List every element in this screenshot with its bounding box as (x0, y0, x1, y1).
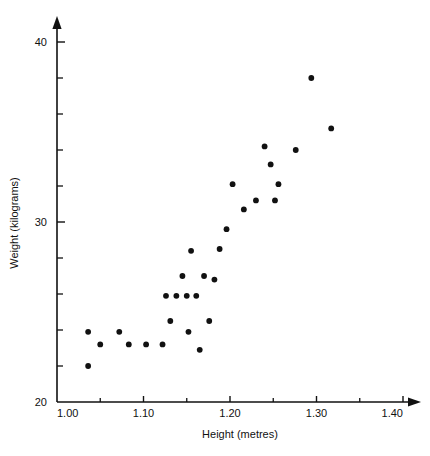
x-axis-arrow-icon (408, 397, 421, 406)
data-point (268, 162, 274, 168)
data-point (188, 248, 194, 254)
data-point (193, 293, 199, 299)
data-point (197, 347, 203, 353)
y-axis-title: Weight (kilograms) (8, 177, 20, 269)
data-point (293, 147, 299, 153)
y-tick-label: 40 (35, 36, 47, 48)
data-point (126, 342, 132, 348)
data-point (224, 226, 230, 232)
data-point (201, 273, 207, 279)
x-axis-title: Height (metres) (202, 428, 278, 440)
x-tick-label: 1.30 (306, 407, 327, 419)
y-tick-label: 30 (35, 216, 47, 228)
data-point (167, 318, 173, 324)
data-point (253, 198, 259, 204)
data-point (217, 246, 223, 252)
axis-tick-labels: 1.001.101.201.301.40203040Height (metres… (8, 36, 403, 440)
data-point (143, 342, 149, 348)
x-tick-label: 1.10 (133, 407, 154, 419)
data-point (97, 342, 103, 348)
data-point (116, 329, 122, 335)
data-point (276, 181, 282, 187)
x-tick-label: 1.40 (382, 407, 403, 419)
data-point (206, 318, 212, 324)
data-points (85, 75, 334, 369)
data-point (262, 144, 268, 150)
data-point (230, 181, 236, 187)
data-point (163, 293, 169, 299)
y-axis-arrow-icon (52, 16, 61, 29)
axis-ticks (57, 42, 403, 402)
data-point (160, 342, 166, 348)
x-tick-label: 1.00 (57, 407, 78, 419)
data-point (328, 125, 334, 131)
data-point (241, 207, 247, 213)
data-point (85, 329, 91, 335)
data-point (180, 273, 186, 279)
data-point (184, 293, 190, 299)
scatter-plot-figure: 1.001.101.201.301.40203040Height (metres… (0, 0, 430, 456)
data-point (85, 363, 91, 369)
data-point (186, 329, 192, 335)
data-point (212, 277, 218, 283)
data-point (173, 293, 179, 299)
data-point (272, 198, 278, 204)
x-tick-label: 1.20 (219, 407, 240, 419)
plot-canvas: 1.001.101.201.301.40203040Height (metres… (0, 0, 430, 456)
axes (52, 16, 421, 407)
data-point (308, 75, 314, 81)
y-tick-label: 20 (35, 396, 47, 408)
